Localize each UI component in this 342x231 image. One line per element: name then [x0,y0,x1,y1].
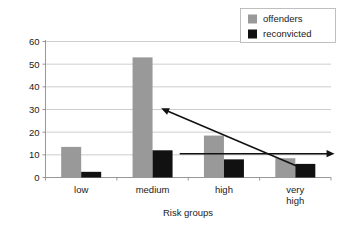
y-axis-tick-label: 0 [34,172,39,183]
annotations-layer [161,108,334,173]
y-axis-tick-label: 10 [29,149,40,160]
bar [224,159,244,177]
y-axis-tick-labels: 0102030405060 [29,36,40,183]
x-axis-category-label: very [286,184,304,195]
x-axis-category-label: high [215,184,233,195]
threshold-arrow-head [327,150,335,157]
legend-label: reconvicted [263,28,312,39]
y-axis-tick-label: 40 [29,81,40,92]
bar [61,147,81,178]
legend-swatch [248,30,257,39]
x-axis-category-label: medium [136,184,170,195]
x-axis-title: Risk groups [163,207,213,218]
x-axis-category-label: low [74,184,88,195]
y-axis-tick-label: 60 [29,36,40,47]
legend-swatch [248,15,257,24]
bar [81,172,101,178]
x-axis-category-labels: lowmediumhighveryhigh [74,184,304,206]
bar [153,150,173,177]
legend: offendersreconvicted [241,9,336,43]
y-axis-tick-label: 30 [29,104,40,115]
x-axis-category-label: high [286,195,304,206]
y-axis-tick-label: 50 [29,59,40,70]
bars-layer [61,57,315,177]
legend-label: offenders [263,13,303,24]
bar [133,57,153,177]
chart-canvas: 0102030405060 lowmediumhighveryhigh Risk… [0,0,342,231]
bar [204,136,224,178]
y-axis-tick-label: 20 [29,127,40,138]
risk-groups-bar-chart: 0102030405060 lowmediumhighveryhigh Risk… [0,0,342,231]
gridlines [46,42,332,155]
